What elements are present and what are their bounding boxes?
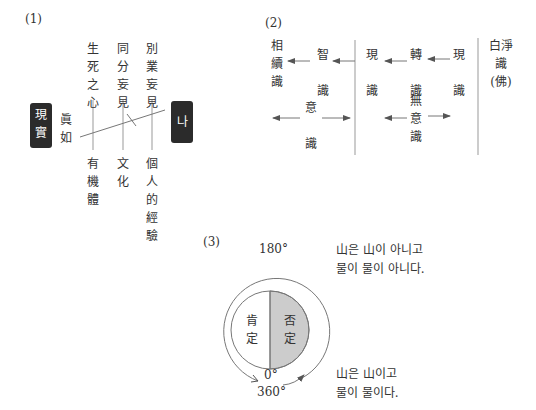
top-label-1: 生死之心 xyxy=(86,40,100,112)
affirmation-label: 肯定 xyxy=(245,312,259,348)
bottom-label-2: 文化 xyxy=(116,155,130,191)
continuity-consciousness: 相續識 xyxy=(270,37,284,91)
true-suchness-text: 眞如 xyxy=(59,111,73,147)
diagram-2-label: (2) xyxy=(265,16,282,30)
top-text-line-2: 물이 물이 아니다. xyxy=(336,259,424,276)
manifest-consciousness-2: 現識 xyxy=(452,37,466,109)
angle-0: 0° xyxy=(264,368,278,382)
top-text-line-1: 山은 山이 아니고 xyxy=(336,240,423,257)
diagram-1-label: (1) xyxy=(25,12,42,26)
consciousness: 意識 xyxy=(304,90,318,162)
top-label-2: 同分妄見 xyxy=(116,40,130,112)
diagram-3-label: (3) xyxy=(203,235,220,249)
reality-box: 現實 xyxy=(30,103,52,148)
angle-360: 360° xyxy=(257,385,286,399)
bottom-label-1: 有機體 xyxy=(86,155,100,209)
manifest-consciousness-1: 現識 xyxy=(365,37,379,109)
top-label-3: 別業妄見 xyxy=(145,40,159,112)
negation-label: 否定 xyxy=(283,312,297,348)
pure-consciousness-buddha: 白淨識(佛) xyxy=(488,37,514,91)
bottom-text-line-2: 물이 물이다. xyxy=(336,383,399,400)
bottom-text-line-1: 山은 山이고 xyxy=(336,364,397,381)
unconsciousness: 無意識 xyxy=(409,92,423,146)
self-box: 나 xyxy=(171,101,193,143)
angle-180: 180° xyxy=(259,242,288,256)
wisdom-consciousness: 智識 xyxy=(316,37,330,109)
bottom-label-3: 個人的經驗 xyxy=(145,155,159,245)
